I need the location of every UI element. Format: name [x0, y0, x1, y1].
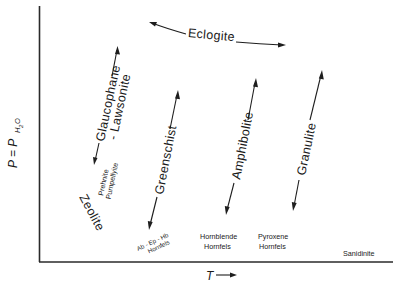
facies-ab-ep-hb-hornfels: Ab - Ep - Hb Hornfels — [135, 231, 172, 258]
facies-amphibolite: Amphibolite — [225, 78, 258, 215]
y-axis-label-sub-o: O — [13, 118, 22, 124]
granulite-arrowhead-bottom-icon — [292, 202, 297, 211]
x-axis-arrow-icon — [230, 273, 237, 278]
facies-pyroxene-hornfels: Pyroxene Hornfels — [258, 232, 288, 251]
amphibolite-arrowhead-top-icon — [253, 78, 258, 87]
sanidinite-label: Sanidinite — [343, 249, 375, 258]
hornblende-label: Hornblende — [200, 232, 237, 241]
granulite-arrowhead-top-icon — [319, 70, 324, 80]
granulite-arrow-bottom — [294, 180, 299, 206]
facies-prehnite-pumpellyite: Prehnite Pumpellyite — [96, 160, 120, 200]
eclogite-arrow-left — [152, 23, 186, 34]
greenschist-arrowhead-top-icon — [175, 90, 180, 99]
hornblende-hornfels-label: Hornfels — [204, 242, 231, 251]
facies-sanidinite: Sanidinite — [343, 249, 375, 258]
glaucophane-arrowhead-bottom-icon — [93, 157, 98, 165]
granulite-label: Granulite — [294, 121, 319, 176]
eclogite-arrowhead-right-icon — [278, 43, 286, 48]
metamorphic-facies-diagram: P = P H 2 O T Eclogite Glaucophane - Law… — [0, 0, 409, 285]
amphibolite-arrowhead-bottom-icon — [225, 206, 230, 215]
eclogite-arrow-right — [236, 42, 282, 45]
greenschist-arrow-bottom — [150, 197, 157, 225]
greenschist-label: Greenschist — [152, 124, 179, 196]
amphibolite-arrow-bottom — [227, 183, 234, 210]
greenschist-arrowhead-bottom-icon — [148, 221, 153, 230]
facies-glaucophane-lawsonite: Glaucophane - Lawsonite — [93, 46, 135, 165]
eclogite-arrowhead-left-icon — [149, 22, 157, 27]
pyroxene-label: Pyroxene — [258, 232, 288, 241]
glaucophane-arrowhead-top-icon — [115, 46, 120, 55]
facies-eclogite: Eclogite — [149, 22, 286, 48]
y-axis-label: P = P H 2 O — [6, 118, 24, 168]
facies-hornblende-hornfels: Hornblende Hornfels — [200, 232, 237, 251]
facies-granulite: Granulite — [292, 70, 324, 211]
pyroxene-hornfels-label: Hornfels — [259, 242, 286, 251]
facies-greenschist: Greenschist — [148, 90, 180, 230]
x-axis-label: T — [206, 269, 237, 283]
granulite-arrow-top — [310, 75, 321, 120]
x-axis-label-text: T — [206, 269, 215, 283]
greenschist-arrow-top — [170, 95, 177, 129]
eclogite-label: Eclogite — [187, 26, 235, 44]
amphibolite-label: Amphibolite — [229, 111, 256, 181]
y-axis-label-main: P = P — [6, 139, 20, 168]
